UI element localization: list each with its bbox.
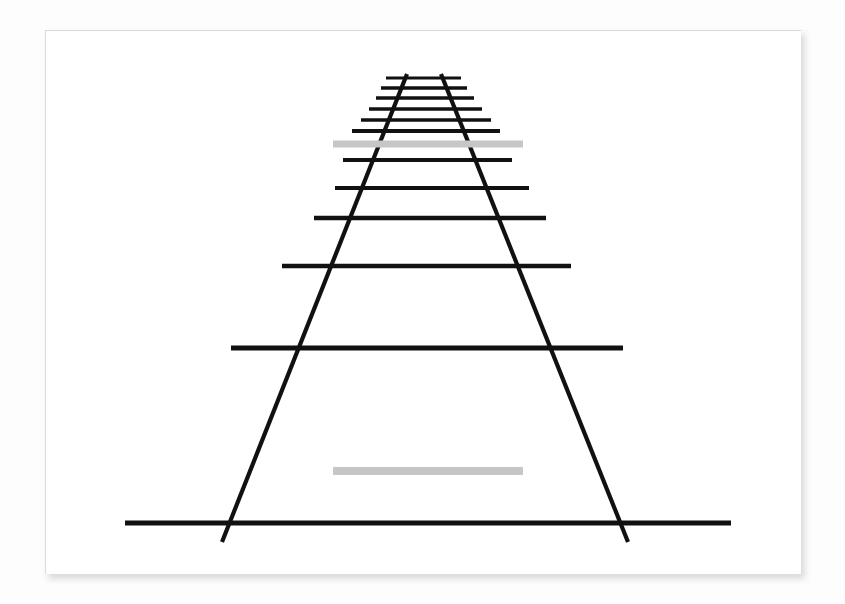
ponzo-illusion-drawing: Ponzo illusion (railroad track illusion)… bbox=[0, 0, 845, 604]
ponzo-illusion-figure: Ponzo illusion (railroad track illusion)… bbox=[0, 0, 845, 604]
